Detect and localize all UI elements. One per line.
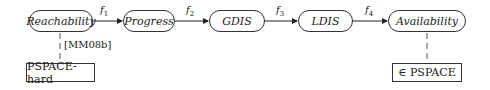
box-label: PSPACE-hard	[27, 60, 94, 86]
node-label: Availability	[396, 15, 458, 28]
node-label: Reachability	[26, 15, 95, 28]
node-availability: Availability	[388, 10, 466, 32]
in-pspace-box: ∈ PSPACE	[392, 63, 462, 82]
box-label: ∈ PSPACE	[398, 66, 455, 79]
edge-label-f1: f1	[100, 4, 108, 18]
citation-label: [MM08b]	[64, 39, 111, 50]
node-gdis: GDIS	[209, 10, 265, 32]
edge-label-f3: f3	[276, 4, 284, 18]
node-label: GDIS	[222, 15, 252, 28]
node-reachability: Reachability	[29, 10, 93, 32]
edge-label-f2: f2	[186, 4, 194, 18]
node-label: Progress	[124, 15, 173, 28]
edge-label-f4: f4	[365, 4, 373, 18]
node-progress: Progress	[123, 10, 175, 32]
pspace-hard-box: PSPACE-hard	[26, 63, 95, 82]
node-label: LDIS	[311, 15, 339, 28]
node-ldis: LDIS	[298, 10, 353, 32]
